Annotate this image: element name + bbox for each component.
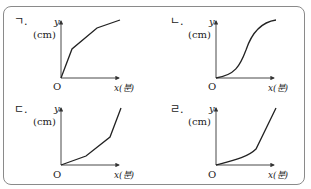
- y-axis-label: y: [208, 16, 215, 27]
- panel-ga: ㄱ. y (cm) O x(분): [14, 15, 135, 93]
- origin-label: O: [208, 169, 216, 180]
- y-unit-label: (cm): [33, 29, 56, 40]
- graph-curve: [61, 108, 121, 165]
- panel-label: ㄴ.: [170, 15, 184, 28]
- graph-curve: [216, 108, 276, 165]
- panel-label: ㄷ.: [14, 103, 28, 116]
- x-axis-label: x(분): [114, 170, 135, 180]
- panel-da: ㄷ. y (cm) O x(분): [14, 103, 135, 180]
- y-axis-label: y: [53, 16, 60, 27]
- y-unit-label: (cm): [188, 29, 211, 40]
- y-unit-label: (cm): [33, 116, 56, 127]
- y-axis-label: y: [53, 103, 60, 114]
- graph-curve: [61, 20, 120, 78]
- origin-label: O: [53, 81, 61, 92]
- x-axis-label: x(분): [268, 83, 289, 93]
- panel-label: ㄱ.: [14, 15, 28, 28]
- origin-label: O: [53, 169, 61, 180]
- x-axis-label: x(분): [268, 170, 289, 180]
- panel-label: ㄹ.: [170, 103, 184, 116]
- panel-ra: ㄹ. y (cm) O x(분): [170, 103, 289, 180]
- y-unit-label: (cm): [188, 116, 211, 127]
- x-axis-label: x(분): [114, 83, 135, 93]
- origin-label: O: [208, 81, 216, 92]
- graph-curve: [216, 20, 276, 78]
- graphs-canvas: ㄱ. y (cm) O x(분) ㄴ. y (cm) O x(분) ㄷ. y (…: [0, 0, 311, 189]
- y-axis-label: y: [208, 103, 215, 114]
- panel-na: ㄴ. y (cm) O x(분): [170, 15, 289, 93]
